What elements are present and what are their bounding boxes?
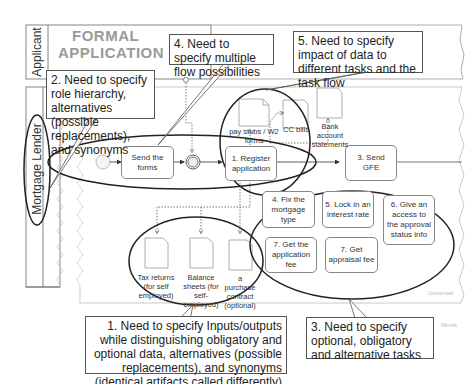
task-lock-interest-rate[interactable]: 5. Lock in an interest rate xyxy=(322,191,374,228)
task-application-fee[interactable]: 7. Get the application fee xyxy=(265,237,317,273)
callout-inputs-outputs: 1. Need to specify Inputs/outputs while … xyxy=(85,316,287,374)
callout-flow-possibilities: 4. Need to specify multiple flow possibi… xyxy=(169,34,274,65)
lane-label-mortgage-lender: Mortgage Lender xyxy=(30,119,44,219)
callout-optional-tasks: 3. Need to specify optional, obligatory … xyxy=(306,317,434,359)
pool-title-line1: FORMAL xyxy=(58,27,164,44)
doc-label-purchase-contract: a purchase contract (optional) xyxy=(223,274,257,310)
task-register-application[interactable]: 1. Register application xyxy=(225,146,277,181)
doc-label-tax-returns: Tax returns (for self employed) xyxy=(133,273,179,300)
callout-data-impact: 5. Need to specify impact of data to dif… xyxy=(293,31,423,73)
watermark-universal: Universal xyxy=(428,290,453,296)
start-event-icon xyxy=(96,155,110,169)
document-balance-sheets-icon xyxy=(190,238,213,268)
task-send-gfe[interactable]: 3. Send GFE xyxy=(345,145,397,181)
document-purchase-contract-icon xyxy=(229,240,252,270)
document-pay-stubs-icon xyxy=(239,99,269,126)
doc-label-cc-bills: CC bills xyxy=(281,125,311,134)
document-cc-bills-icon xyxy=(283,100,308,128)
document-tax-returns-icon xyxy=(145,238,168,268)
doc-label-bank-statements: Bank account statements xyxy=(311,122,349,149)
document-bank-statements-icon xyxy=(317,88,342,118)
pool-title: FORMAL APPLICATION xyxy=(58,27,164,61)
task-give-access[interactable]: 6. Give an access to the approval status… xyxy=(383,195,435,245)
task-appraisal-fee[interactable]: 7. Get appraisal fee xyxy=(325,237,378,273)
task-fix-mortgage-type[interactable]: 4. Fix the mortgage type xyxy=(262,191,315,228)
doc-label-balance-sheets: Balance sheets (for self-employed) xyxy=(182,273,220,309)
watermark-minds: Minds xyxy=(441,322,457,328)
task-send-forms[interactable]: Send the forms xyxy=(121,146,174,179)
callout-role-hierarchy: 2. Need to specify role hierarchy, alter… xyxy=(46,70,155,119)
lane-label-applicant: Applicant xyxy=(30,23,44,81)
doc-label-pay-stubs: pay stubs / W2 forms xyxy=(228,127,280,145)
pool-title-line2: APPLICATION xyxy=(58,44,164,61)
